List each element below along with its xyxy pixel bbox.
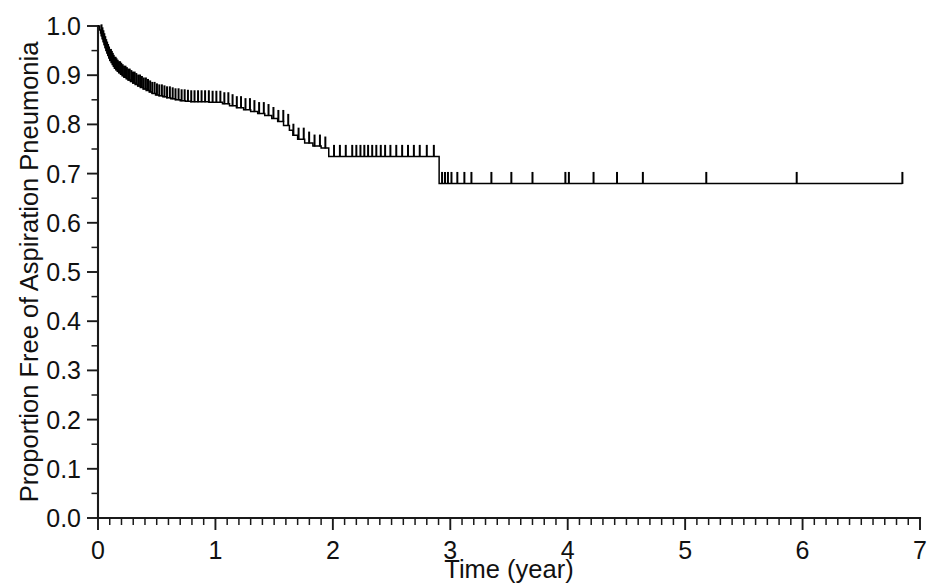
x-tick-label: 0 bbox=[91, 536, 105, 564]
survival-curve-line bbox=[98, 26, 902, 183]
x-axis-title: Time (year) bbox=[444, 555, 573, 583]
y-tick-label: 1.0 bbox=[46, 12, 81, 40]
y-tick-label: 0.0 bbox=[46, 504, 81, 532]
y-tick-label: 0.9 bbox=[46, 61, 81, 89]
y-axis-tick-labels: 0.00.10.20.30.40.50.60.70.80.91.0 bbox=[46, 12, 81, 532]
censoring-marks-group bbox=[102, 24, 903, 184]
survival-plot-svg: 0.00.10.20.30.40.50.60.70.80.91.0 012345… bbox=[0, 0, 941, 586]
kaplan-meier-figure: 0.00.10.20.30.40.50.60.70.80.91.0 012345… bbox=[0, 0, 941, 586]
x-tick-label: 2 bbox=[326, 536, 340, 564]
x-tick-label: 5 bbox=[678, 536, 692, 564]
x-tick-label: 6 bbox=[796, 536, 810, 564]
km-curve-group bbox=[98, 26, 902, 183]
x-tick-label: 7 bbox=[913, 536, 927, 564]
y-tick-label: 0.5 bbox=[46, 258, 81, 286]
y-tick-label: 0.8 bbox=[46, 110, 81, 138]
y-tick-label: 0.6 bbox=[46, 209, 81, 237]
x-tick-label: 1 bbox=[208, 536, 222, 564]
y-tick-label: 0.7 bbox=[46, 160, 81, 188]
y-tick-label: 0.2 bbox=[46, 406, 81, 434]
y-axis-title: Proportion Free of Aspiration Pneumonia bbox=[15, 41, 43, 502]
y-tick-label: 0.1 bbox=[46, 455, 81, 483]
x-axis-ticks bbox=[98, 518, 920, 530]
y-axis-ticks bbox=[87, 26, 98, 518]
y-tick-label: 0.3 bbox=[46, 356, 81, 384]
y-tick-label: 0.4 bbox=[46, 307, 81, 335]
